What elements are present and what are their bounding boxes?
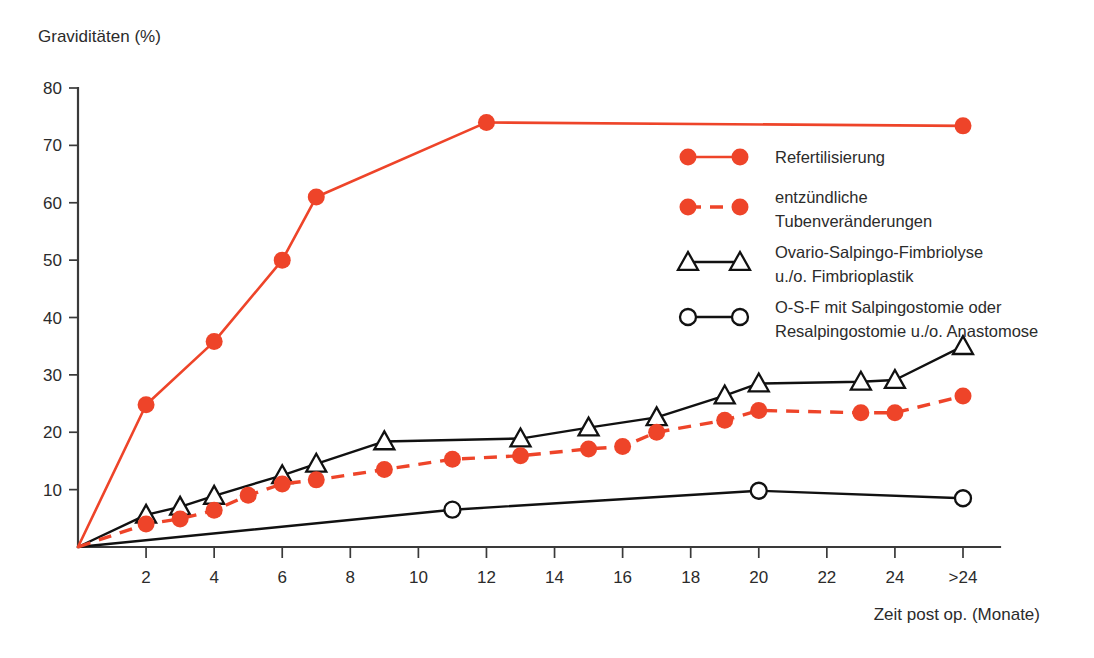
data-point <box>852 404 869 421</box>
data-point <box>444 502 460 518</box>
data-point <box>308 471 325 488</box>
x-axis-tick-label: 2 <box>141 568 150 587</box>
legend-label-line2: Resalpingostomie u./o. Anastomose <box>775 322 1038 340</box>
legend-label-line1: Ovario-Salpingo-Fimbriolyse <box>775 243 983 261</box>
x-axis-tick-label: 10 <box>409 568 428 587</box>
data-point <box>750 402 767 419</box>
y-axis-tick-label: 10 <box>43 481 62 500</box>
x-axis-tick-label: 6 <box>277 568 286 587</box>
data-point <box>580 440 597 457</box>
x-axis-tick-label: 8 <box>346 568 355 587</box>
y-axis-tick-label: 30 <box>43 366 62 385</box>
y-axis-title: Graviditäten (%) <box>38 27 161 46</box>
data-point <box>886 404 903 421</box>
x-axis-tick-label: 12 <box>477 568 496 587</box>
data-point <box>240 487 257 504</box>
x-axis-tick-label: 18 <box>681 568 700 587</box>
legend-item-3[interactable]: O-S-F mit Salpingostomie oderResalpingos… <box>680 298 1038 340</box>
y-axis-tick-label: 40 <box>43 309 62 328</box>
legend-label-line2: Tubenveränderungen <box>775 212 932 230</box>
y-axis-tick-label: 80 <box>43 79 62 98</box>
data-point <box>955 388 972 405</box>
x-axis-tick-label: >24 <box>949 568 978 587</box>
data-point <box>614 438 631 455</box>
data-point <box>206 333 223 350</box>
legend-label-line2: u./o. Fimbrioplastik <box>775 267 914 285</box>
data-point <box>648 424 665 441</box>
data-point <box>172 510 189 527</box>
data-point <box>751 483 767 499</box>
data-point <box>274 475 291 492</box>
data-point <box>715 386 735 404</box>
legend-item-1[interactable]: entzündlicheTubenveränderungen <box>680 188 933 230</box>
chart-canvas: 102030405060708024681012141618202224>24 … <box>0 0 1094 658</box>
y-axis-tick-label: 70 <box>43 136 62 155</box>
x-axis-tick-label: 22 <box>817 568 836 587</box>
data-point <box>274 252 291 269</box>
data-point <box>955 490 971 506</box>
series-1 <box>78 388 972 547</box>
data-point <box>308 189 325 206</box>
data-point <box>444 451 461 468</box>
series-line <box>78 396 963 547</box>
y-axis-tick-label: 50 <box>43 251 62 270</box>
data-point <box>716 412 733 429</box>
legend-label-line1: entzündliche <box>775 188 868 206</box>
data-point <box>206 502 223 519</box>
legend-swatch-marker-right <box>732 149 749 166</box>
legend-label-line1: Refertilisierung <box>775 148 885 166</box>
data-point <box>512 447 529 464</box>
legend-group: RefertilisierungentzündlicheTubenverände… <box>678 148 1038 340</box>
legend-label-line1: O-S-F mit Salpingostomie oder <box>775 298 1002 316</box>
x-axis-tick-label: 14 <box>545 568 564 587</box>
data-point <box>955 117 972 134</box>
y-axis-tick-label: 20 <box>43 423 62 442</box>
data-point <box>376 461 393 478</box>
legend-item-2[interactable]: Ovario-Salpingo-Fimbriolyseu./o. Fimbrio… <box>678 243 983 285</box>
legend-swatch-marker-left <box>680 149 697 166</box>
data-point <box>138 396 155 413</box>
x-axis-tick-label: 24 <box>885 568 904 587</box>
data-point <box>138 516 155 533</box>
legend-swatch-marker-left <box>680 309 696 325</box>
chart-figure: 102030405060708024681012141618202224>24 … <box>0 0 1094 658</box>
data-point <box>885 370 905 388</box>
legend-swatch-marker-right <box>732 199 749 216</box>
legend-item-0[interactable]: Refertilisierung <box>680 148 886 166</box>
legend-swatch-marker-left <box>680 199 697 216</box>
legend-swatch-marker-right <box>732 309 748 325</box>
y-axis-tick-label: 60 <box>43 194 62 213</box>
x-axis-tick-label: 4 <box>209 568 218 587</box>
data-point <box>478 114 495 131</box>
x-axis-title: Zeit post op. (Monate) <box>874 605 1040 624</box>
x-axis-tick-label: 16 <box>613 568 632 587</box>
x-axis-tick-label: 20 <box>749 568 768 587</box>
